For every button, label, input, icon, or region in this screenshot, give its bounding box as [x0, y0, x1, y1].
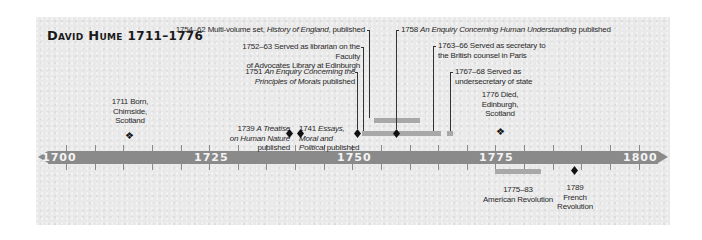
born-line3: Scotland [105, 116, 155, 126]
event-undersecretary-label: 1767–68 Served as undersecretary of stat… [455, 67, 565, 86]
history-connector [369, 30, 370, 118]
tick [438, 145, 439, 170]
history-prefix: 1754–62 Multi-volume set, [176, 25, 267, 34]
tick [295, 145, 296, 170]
undersecretary-line1: 1767–68 Served as [455, 67, 565, 77]
tick [553, 145, 554, 170]
librarian-connector [363, 47, 364, 131]
tick [467, 145, 468, 170]
born-line1: 1711 Born, [105, 97, 155, 107]
event-librarian-label: 1752–63 Served as librarian on the Facul… [220, 42, 360, 71]
history-bar [374, 118, 420, 123]
understanding-prefix: 1758 [401, 25, 420, 34]
event-french-label: 1789 French Revolution [554, 183, 596, 212]
tick [181, 145, 182, 170]
understanding-connector [396, 30, 397, 129]
undersecretary-bar [447, 131, 453, 136]
event-treatise-label: 1739 A Treatise on Human Nature publishe… [220, 124, 290, 153]
tick [610, 145, 611, 170]
essays-title-3: Political [299, 143, 325, 152]
history-title: History of England [267, 25, 329, 34]
secretary-line2: the British counsel in Paris [438, 51, 578, 61]
event-essays-label: 1741 Essays, Moral and Political publish… [299, 124, 379, 153]
secretary-bar [424, 131, 441, 136]
event-history-label: 1754–62 Multi-volume set, History of Eng… [150, 25, 365, 35]
librarian-line1: 1752–63 Served as librarian on the Facul… [220, 42, 360, 61]
treatise-title-1: A Treatise [256, 124, 290, 133]
undersecretary-connector [450, 72, 451, 131]
axis-label-1725: 1725 [194, 151, 229, 164]
tick [410, 145, 411, 170]
secretary-connector [433, 46, 434, 131]
tick [524, 145, 525, 170]
born-line2: Chirnside, [105, 107, 155, 117]
american-line1: 1775–83 [478, 185, 558, 195]
french-line1: 1789 [554, 183, 596, 193]
secretary-line1: 1763–66 Served as secretary to [438, 41, 578, 51]
history-suffix: , published [329, 25, 366, 34]
died-line3: Scotland [475, 109, 525, 119]
american-revolution-bar [495, 169, 541, 174]
died-line2: Edinburgh, [475, 100, 525, 110]
death-ornament-icon: ❖ [496, 127, 505, 137]
axis-label-1775: 1775 [479, 151, 514, 164]
treatise-suffix: published [220, 143, 290, 153]
morals-title-2: Principles of Morals [255, 77, 321, 86]
event-secretary-label: 1763–66 Served as secretary to the Briti… [438, 41, 578, 60]
essays-title-2: Moral and [299, 134, 333, 143]
french-line3: Revolution [554, 202, 596, 212]
essays-title-1: Essays, [318, 124, 345, 133]
treatise-prefix: 1739 [237, 124, 256, 133]
event-american-label: 1775–83 American Revolution [478, 185, 558, 204]
undersecretary-line2: undersecretary of state [455, 77, 565, 87]
title-name: David Hume [47, 28, 123, 43]
event-understanding-label: 1758 An Enquiry Concerning Human Underst… [401, 25, 691, 35]
french-line2: French [554, 193, 596, 203]
treatise-title-2: on Human Nature [230, 134, 290, 143]
axis-label-1800: 1800 [623, 151, 658, 164]
event-died-label: 1776 Died, Edinburgh, Scotland [475, 90, 525, 119]
understanding-suffix: published [576, 25, 610, 34]
morals-connector [357, 72, 358, 129]
axis-label-1750: 1750 [337, 151, 372, 164]
axis-label-1700: 1700 [42, 151, 77, 164]
librarian-line2: of Advocates Library at Edinburgh [220, 61, 360, 71]
essays-suffix: published [325, 143, 359, 152]
event-born-label: 1711 Born, Chirnside, Scotland [105, 97, 155, 126]
tick [152, 145, 153, 170]
understanding-title: An Enquiry Concerning Human Understandin… [420, 25, 576, 34]
morals-suffix: published [321, 77, 355, 86]
tick [95, 145, 96, 170]
tick [581, 145, 582, 170]
tick [123, 145, 124, 170]
tick [381, 145, 382, 170]
died-line1: 1776 Died, [475, 90, 525, 100]
american-line2: American Revolution [478, 195, 558, 205]
birth-ornament-icon: ❖ [125, 131, 134, 141]
